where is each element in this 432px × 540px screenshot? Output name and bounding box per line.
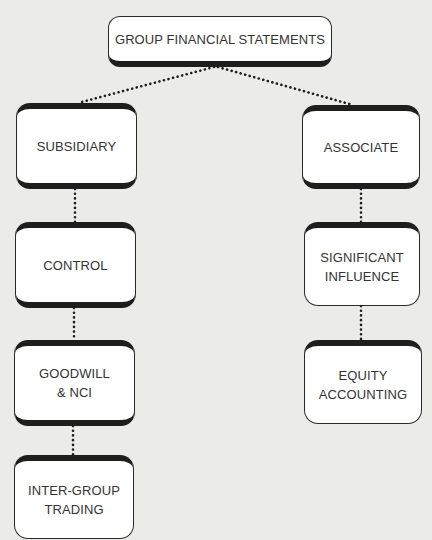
node-control: CONTROL (15, 222, 136, 308)
node-label: INTER-GROUP TRADING (28, 481, 120, 519)
edge-root-associate (218, 67, 353, 105)
node-label: ASSOCIATE (324, 138, 398, 157)
node-group-financial-statements: GROUP FINANCIAL STATEMENTS (108, 16, 332, 67)
node-label: SUBSIDIARY (37, 137, 117, 156)
edge-root-subsidiary (78, 67, 214, 103)
node-label: GOODWILL & NCI (39, 364, 110, 402)
node-significant-influence: SIGNIFICANT INFLUENCE (304, 222, 420, 306)
node-label: EQUITY ACCOUNTING (319, 366, 407, 404)
node-label: GROUP FINANCIAL STATEMENTS (115, 30, 325, 49)
node-associate: ASSOCIATE (302, 105, 420, 189)
node-subsidiary: SUBSIDIARY (16, 103, 137, 189)
node-label: CONTROL (43, 256, 107, 275)
node-equity-accounting: EQUITY ACCOUNTING (304, 340, 422, 424)
node-label: SIGNIFICANT INFLUENCE (320, 248, 403, 286)
node-goodwill-nci: GOODWILL & NCI (14, 340, 135, 426)
node-inter-group-trading: INTER-GROUP TRADING (14, 455, 134, 539)
